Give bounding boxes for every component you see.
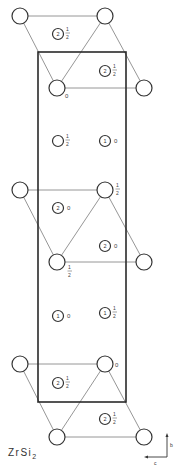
zr-atom bbox=[97, 182, 113, 198]
svg-text:0: 0 bbox=[114, 243, 118, 249]
svg-text:1: 1 bbox=[68, 264, 71, 270]
svg-text:1: 1 bbox=[113, 63, 116, 69]
svg-text:2: 2 bbox=[68, 272, 71, 278]
svg-text:2: 2 bbox=[66, 141, 69, 147]
zr-atom bbox=[136, 254, 152, 270]
svg-text:1: 1 bbox=[103, 138, 106, 144]
svg-text:2: 2 bbox=[56, 31, 59, 37]
svg-text:1: 1 bbox=[113, 411, 116, 417]
c-axis-label: c bbox=[154, 460, 157, 466]
svg-text:2: 2 bbox=[113, 419, 116, 425]
svg-text:1: 1 bbox=[116, 182, 119, 188]
crystal-structure-diagram: 0 1 2 1 2 0 2 12 2 12 12 bbox=[0, 0, 176, 469]
svg-text:1: 1 bbox=[103, 310, 106, 316]
svg-text:2: 2 bbox=[66, 383, 69, 389]
zr-atom bbox=[12, 8, 28, 24]
zr-atom bbox=[12, 182, 28, 198]
svg-text:2: 2 bbox=[113, 313, 116, 319]
b-arrowhead-icon bbox=[166, 433, 169, 437]
si-height-half: 12 bbox=[113, 411, 118, 425]
zr-atom bbox=[49, 254, 65, 270]
svg-text:0: 0 bbox=[67, 313, 71, 319]
svg-text:0: 0 bbox=[67, 205, 71, 211]
si-height-half: 12 bbox=[66, 133, 71, 147]
zr-atoms: 0 1 2 1 2 0 bbox=[12, 8, 152, 445]
zr-height-label: 0 bbox=[65, 93, 69, 99]
svg-text:2: 2 bbox=[116, 190, 119, 196]
svg-text:2: 2 bbox=[103, 68, 106, 74]
zr-height-half: 1 2 bbox=[68, 264, 73, 278]
b-axis-label: b bbox=[170, 442, 173, 448]
svg-text:1: 1 bbox=[66, 375, 69, 381]
svg-text:2: 2 bbox=[103, 243, 106, 249]
zr-atom bbox=[136, 429, 152, 445]
zr-height-label: 0 bbox=[115, 362, 119, 368]
zr-height-half: 1 2 bbox=[116, 182, 121, 196]
svg-text:1: 1 bbox=[66, 133, 69, 139]
svg-text:1: 1 bbox=[113, 305, 116, 311]
svg-text:1: 1 bbox=[66, 26, 69, 32]
svg-text:2: 2 bbox=[56, 205, 59, 211]
si-atom bbox=[53, 136, 64, 147]
zr-atom bbox=[12, 356, 28, 372]
zr-atom bbox=[97, 356, 113, 372]
svg-text:0: 0 bbox=[114, 138, 118, 144]
svg-text:2: 2 bbox=[103, 416, 106, 422]
svg-text:2: 2 bbox=[56, 380, 59, 386]
zr-atom bbox=[49, 80, 65, 96]
svg-text:2: 2 bbox=[113, 71, 116, 77]
compound-title: ZrSi2 bbox=[8, 447, 38, 460]
svg-text:2: 2 bbox=[66, 34, 69, 40]
si-height-half: 12 bbox=[113, 63, 118, 77]
si-height-half: 12 bbox=[66, 26, 71, 40]
unit-cell-outline bbox=[38, 52, 126, 402]
zr-atom bbox=[49, 429, 65, 445]
c-arrowhead-icon bbox=[144, 456, 148, 459]
si-height-half: 12 bbox=[113, 305, 118, 319]
zr-atom bbox=[97, 8, 113, 24]
zr-atom bbox=[136, 80, 152, 96]
si-height-half: 12 bbox=[66, 375, 71, 389]
svg-text:1: 1 bbox=[56, 313, 59, 319]
